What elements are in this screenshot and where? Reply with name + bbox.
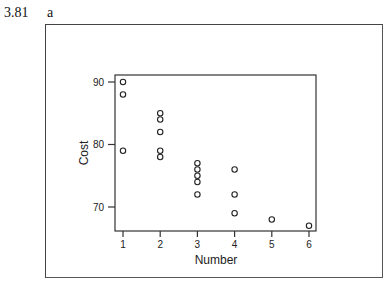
data-point (306, 223, 311, 228)
x-tick-label: 1 (120, 239, 126, 250)
data-point (158, 117, 163, 122)
y-axis: 708090 (93, 77, 115, 213)
data-point (232, 192, 237, 197)
data-point (120, 79, 125, 84)
x-tick-label: 4 (232, 239, 238, 250)
data-point (195, 179, 200, 184)
data-point (158, 129, 163, 134)
plot-area (115, 75, 316, 231)
data-point (269, 217, 274, 222)
data-point (195, 167, 200, 172)
data-point (232, 211, 237, 216)
data-point (195, 192, 200, 197)
y-tick-label: 90 (93, 77, 105, 88)
x-axis: 123456 (120, 231, 312, 250)
data-point (195, 173, 200, 178)
x-tick-label: 5 (269, 239, 275, 250)
data-point (158, 148, 163, 153)
data-point (158, 154, 163, 159)
data-point (120, 148, 125, 153)
y-axis-title: Cost (77, 140, 91, 165)
x-tick-label: 6 (306, 239, 312, 250)
y-tick-label: 70 (93, 202, 105, 213)
x-tick-label: 2 (157, 239, 163, 250)
x-axis-title: Number (195, 253, 238, 267)
x-tick-label: 3 (195, 239, 201, 250)
data-points (120, 79, 311, 228)
data-point (232, 167, 237, 172)
data-point (158, 111, 163, 116)
scatter-plot: 708090 123456 Number Cost (0, 0, 389, 281)
data-point (120, 92, 125, 97)
y-tick-label: 80 (93, 139, 105, 150)
data-point (195, 161, 200, 166)
